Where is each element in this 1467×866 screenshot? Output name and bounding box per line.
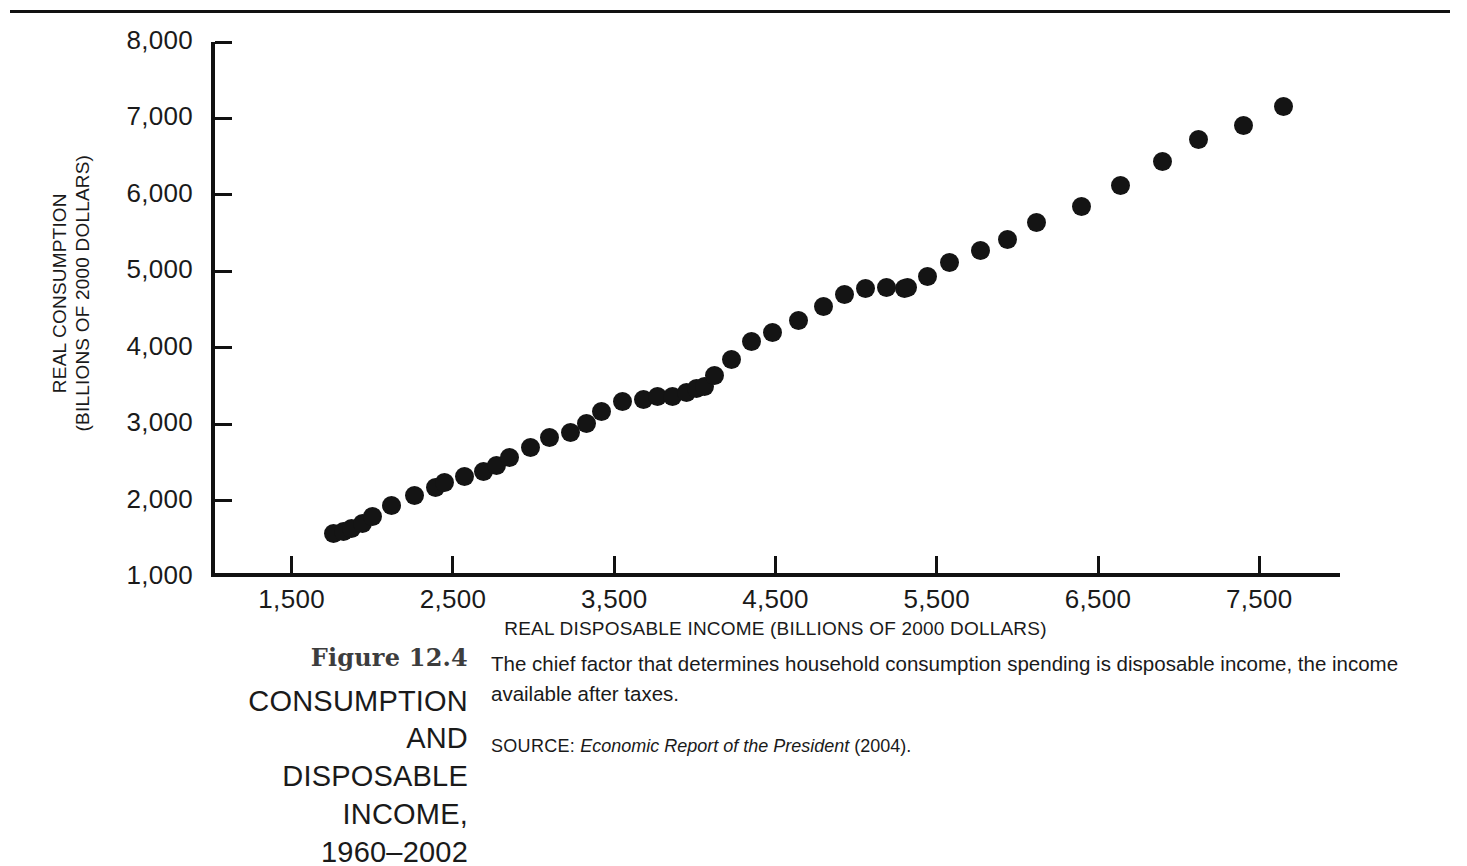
y-tick-mark xyxy=(215,41,232,44)
x-tick-mark xyxy=(451,556,454,573)
x-tick-label: 4,500 xyxy=(742,584,809,615)
y-tick-mark xyxy=(215,117,232,120)
data-point xyxy=(877,278,896,297)
data-point xyxy=(1027,213,1046,232)
data-point xyxy=(918,267,937,286)
data-point xyxy=(1072,197,1091,216)
x-tick-mark xyxy=(1097,556,1100,573)
data-point xyxy=(1153,152,1172,171)
plot-area: 1,0002,0003,0004,0005,0006,0007,0008,000… xyxy=(211,42,1340,577)
x-tick-mark xyxy=(935,556,938,573)
data-point xyxy=(856,279,875,298)
x-tick-label: 2,500 xyxy=(420,584,487,615)
y-axis-title: REAL CONSUMPTION (BILLIONS OF 2000 DOLLA… xyxy=(48,148,94,438)
y-tick-label: 8,000 xyxy=(126,25,193,56)
data-point xyxy=(540,428,559,447)
figure-name: CONSUMPTION AND DISPOSABLE INCOME, 1960–… xyxy=(180,683,468,866)
figure-number: Figure 12.4 xyxy=(180,644,468,673)
data-point xyxy=(435,473,454,492)
y-tick-mark xyxy=(215,270,232,273)
figure-text-column: The chief factor that determines househo… xyxy=(491,649,1436,757)
x-axis-line xyxy=(211,573,1340,577)
x-axis-title: REAL DISPOSABLE INCOME (BILLIONS OF 2000… xyxy=(211,618,1340,640)
data-point xyxy=(835,285,854,304)
data-point xyxy=(742,332,761,351)
data-point xyxy=(971,241,990,260)
y-tick-mark xyxy=(215,499,232,502)
x-tick-mark xyxy=(1258,556,1261,573)
y-axis-line xyxy=(211,42,215,577)
data-point xyxy=(382,496,401,515)
data-point xyxy=(940,253,959,272)
data-point xyxy=(455,467,474,486)
y-tick-mark xyxy=(215,346,232,349)
scatter-chart: REAL CONSUMPTION (BILLIONS OF 2000 DOLLA… xyxy=(0,22,1467,632)
figure-caption-block: Figure 12.4 CONSUMPTION AND DISPOSABLE I… xyxy=(0,644,1467,804)
source-label: SOURCE: xyxy=(491,736,575,756)
data-point xyxy=(521,438,540,457)
y-tick-mark xyxy=(215,193,232,196)
y-tick-label: 3,000 xyxy=(126,407,193,438)
y-tick-label: 5,000 xyxy=(126,254,193,285)
data-point xyxy=(1111,176,1130,195)
source-year: (2004). xyxy=(854,736,911,756)
data-point xyxy=(898,278,917,297)
top-divider-rule xyxy=(10,10,1450,13)
x-tick-mark xyxy=(290,556,293,573)
data-point xyxy=(363,507,382,526)
source-title: Economic Report of the President xyxy=(580,736,849,756)
data-point xyxy=(705,366,724,385)
y-tick-mark xyxy=(215,423,232,426)
data-point xyxy=(1274,97,1293,116)
data-point xyxy=(592,402,611,421)
x-tick-mark xyxy=(774,556,777,573)
y-tick-label: 7,000 xyxy=(126,101,193,132)
y-tick-label: 4,000 xyxy=(126,331,193,362)
data-point xyxy=(1234,116,1253,135)
data-point xyxy=(722,350,741,369)
x-tick-label: 7,500 xyxy=(1226,584,1293,615)
data-point xyxy=(763,323,782,342)
x-tick-mark xyxy=(613,556,616,573)
y-tick-label: 2,000 xyxy=(126,484,193,515)
data-point xyxy=(613,392,632,411)
x-tick-label: 6,500 xyxy=(1065,584,1132,615)
data-point xyxy=(814,297,833,316)
data-point xyxy=(405,486,424,505)
x-tick-label: 3,500 xyxy=(581,584,648,615)
data-point xyxy=(1189,130,1208,149)
figure-source: SOURCE: Economic Report of the President… xyxy=(491,736,1436,757)
x-tick-label: 1,500 xyxy=(258,584,325,615)
figure-description: The chief factor that determines househo… xyxy=(491,649,1436,710)
x-tick-label: 5,500 xyxy=(903,584,970,615)
figure-title-column: Figure 12.4 CONSUMPTION AND DISPOSABLE I… xyxy=(180,644,468,866)
y-tick-label: 1,000 xyxy=(126,560,193,591)
data-point xyxy=(998,230,1017,249)
data-point xyxy=(789,311,808,330)
data-point xyxy=(500,448,519,467)
y-tick-label: 6,000 xyxy=(126,178,193,209)
